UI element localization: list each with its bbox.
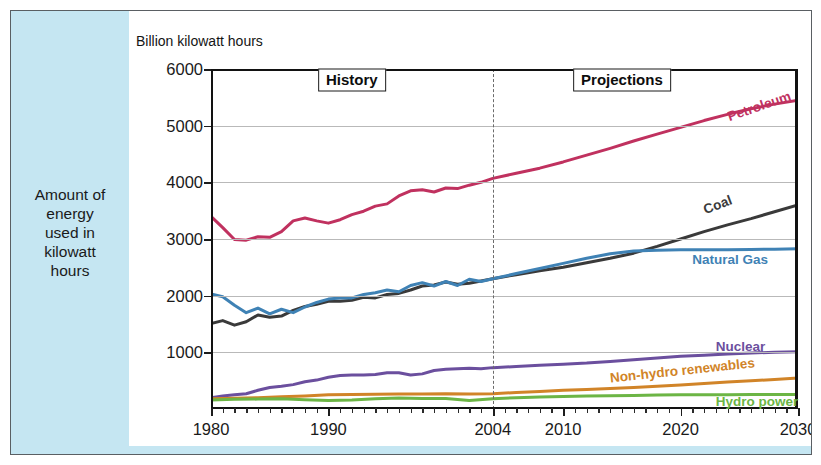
x-tick-minor <box>540 408 541 413</box>
x-tick-minor <box>751 408 752 413</box>
x-tick-minor <box>281 408 282 413</box>
x-tick-minor <box>786 408 787 413</box>
x-tick-minor <box>728 408 729 413</box>
x-tick-major <box>563 408 565 416</box>
x-tick-minor <box>246 408 247 413</box>
series-label-nuclear: Nuclear <box>716 338 766 353</box>
series-line-petroleum <box>211 100 798 240</box>
x-tick-minor <box>657 408 658 413</box>
x-tick-minor <box>434 408 435 413</box>
era-box-projections: Projections <box>573 69 671 92</box>
x-tick-minor <box>551 408 552 413</box>
figure-frame: Amount of energy used in kilowatt hours … <box>10 10 812 455</box>
x-tick-label: 1980 <box>193 420 230 439</box>
x-tick-minor <box>399 408 400 413</box>
x-tick-major <box>328 408 330 416</box>
x-tick-minor <box>446 408 447 413</box>
gridline <box>211 296 798 297</box>
x-tick-minor <box>223 408 224 413</box>
x-tick-minor <box>387 408 388 413</box>
x-tick-minor <box>481 408 482 413</box>
x-tick-minor <box>716 408 717 413</box>
x-tick-major <box>211 408 213 416</box>
gridline <box>211 182 798 183</box>
x-tick-minor <box>293 408 294 413</box>
y-tick-label: 5000 <box>166 116 203 135</box>
x-tick-minor <box>610 408 611 413</box>
y-tick-label: 1000 <box>166 343 203 362</box>
era-box-history: History <box>318 69 386 92</box>
series-label-hydro-power: Hydro power <box>716 393 799 408</box>
chart-panel: Billion kilowatt hours 10002000300040005… <box>129 11 811 446</box>
x-tick-label: 1990 <box>310 420 347 439</box>
x-tick-minor <box>317 408 318 413</box>
caption-rail: Amount of energy used in kilowatt hours <box>11 11 129 454</box>
series-label-natural-gas: Natural Gas <box>692 252 768 267</box>
chart-title: Billion kilowatt hours <box>136 33 263 49</box>
x-tick-minor <box>645 408 646 413</box>
x-tick-minor <box>458 408 459 413</box>
x-tick-minor <box>270 408 271 413</box>
x-tick-major <box>798 408 800 416</box>
x-tick-minor <box>340 408 341 413</box>
x-tick-minor <box>505 408 506 413</box>
x-tick-minor <box>634 408 635 413</box>
x-tick-minor <box>469 408 470 413</box>
x-tick-minor <box>704 408 705 413</box>
plot-area: 198019902004201020202030 PetroleumCoalNa… <box>211 69 798 409</box>
x-tick-minor <box>305 408 306 413</box>
x-tick-minor <box>364 408 365 413</box>
y-tick-label: 4000 <box>166 173 203 192</box>
x-tick-minor <box>234 408 235 413</box>
x-tick-major <box>681 408 683 416</box>
gridline <box>211 239 798 240</box>
x-tick-minor <box>375 408 376 413</box>
x-tick-minor <box>622 408 623 413</box>
x-tick-label: 2020 <box>662 420 699 439</box>
gridline <box>211 126 798 127</box>
x-tick-minor <box>352 408 353 413</box>
y-tick-label: 6000 <box>166 60 203 79</box>
x-tick-label: 2030 <box>780 420 812 439</box>
x-tick-minor <box>669 408 670 413</box>
history-projection-divider <box>493 69 494 409</box>
x-tick-minor <box>598 408 599 413</box>
x-tick-minor <box>575 408 576 413</box>
caption-text: Amount of energy used in kilowatt hours <box>18 185 122 280</box>
x-tick-label: 2010 <box>545 420 582 439</box>
x-tick-minor <box>763 408 764 413</box>
gridline <box>211 352 798 353</box>
x-tick-minor <box>587 408 588 413</box>
x-tick-minor <box>411 408 412 413</box>
x-tick-minor <box>692 408 693 413</box>
y-tick-label: 3000 <box>166 230 203 249</box>
y-axis-labels: 100020003000400050006000 <box>129 69 203 409</box>
x-tick-minor <box>775 408 776 413</box>
x-tick-minor <box>528 408 529 413</box>
x-tick-minor <box>422 408 423 413</box>
y-tick-label: 2000 <box>166 286 203 305</box>
x-tick-minor <box>516 408 517 413</box>
x-tick-major <box>493 408 495 416</box>
x-tick-minor <box>258 408 259 413</box>
x-tick-minor <box>739 408 740 413</box>
x-tick-label: 2004 <box>474 420 511 439</box>
